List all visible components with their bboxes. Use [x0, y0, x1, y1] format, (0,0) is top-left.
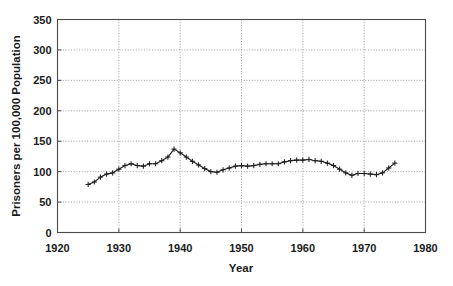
ytick-label-200: 200	[33, 105, 51, 117]
x-axis-title: Year	[229, 262, 254, 274]
ytick-label-150: 150	[33, 135, 51, 147]
xtick-label-1920: 1920	[45, 242, 69, 254]
xtick-label-1980: 1980	[413, 242, 437, 254]
prisoner-rate-line-chart: 050100150200250300350 192019301940195019…	[0, 0, 453, 286]
ytick-label-0: 0	[45, 227, 51, 239]
ytick-label-250: 250	[33, 74, 51, 86]
ytick-label-50: 50	[39, 196, 51, 208]
ytick-label-300: 300	[33, 44, 51, 56]
xtick-label-1950: 1950	[229, 242, 253, 254]
xtick-label-1930: 1930	[107, 242, 131, 254]
xtick-label-1940: 1940	[168, 242, 192, 254]
xtick-label-1960: 1960	[291, 242, 315, 254]
xtick-label-1970: 1970	[352, 242, 376, 254]
chart-figure: 050100150200250300350 192019301940195019…	[0, 0, 453, 286]
y-axis-title: Prisoners per 100,000 Population	[10, 35, 22, 217]
ytick-label-100: 100	[33, 166, 51, 178]
ytick-label-350: 350	[33, 14, 51, 26]
